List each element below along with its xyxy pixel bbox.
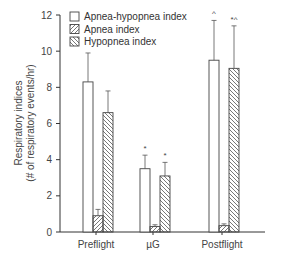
significance-mark: *	[143, 144, 146, 153]
legend-swatch	[70, 25, 79, 34]
legend-item: Apnea index	[70, 24, 140, 35]
y-tick-label: 4	[46, 154, 52, 165]
y-tick-label: 6	[46, 118, 52, 129]
y-tick-label: 8	[46, 82, 52, 93]
bar-0-1: *	[140, 144, 150, 232]
legend-swatch	[70, 12, 79, 21]
bar-2-2: *^	[229, 15, 239, 232]
y-tick-label: 10	[41, 46, 53, 57]
bar-1-1	[150, 225, 160, 232]
legend-label: Hypopnea index	[84, 36, 156, 47]
bar-1-2	[219, 224, 229, 232]
legend-swatch	[70, 37, 79, 46]
legend-item: Apnea-hypopnea index	[70, 11, 187, 22]
legend: Apnea-hypopnea indexApnea indexHypopnea …	[70, 11, 187, 47]
significance-mark: *	[163, 151, 166, 160]
y-axis-title: Respiratory indices(# of respiratory eve…	[13, 64, 36, 181]
y-axis-sublabel: (# of respiratory events/hr)	[25, 64, 36, 181]
significance-mark: *^	[231, 15, 238, 24]
x-category-label: µG	[146, 239, 160, 250]
bar-1-0	[93, 209, 103, 232]
legend-label: Apnea index	[84, 24, 140, 35]
x-category-label: Postflight	[201, 239, 242, 250]
legend-item: Hypopnea index	[70, 36, 156, 47]
bar-2-0	[103, 91, 113, 232]
bar-chart: Respiratory indices(# of respiratory eve…	[0, 0, 284, 263]
y-tick-label: 12	[41, 10, 53, 21]
bar-0-0	[83, 53, 93, 232]
significance-mark: ^	[212, 9, 216, 18]
bar-0-2: ^	[209, 9, 219, 232]
y-axis-label: Respiratory indices	[13, 80, 24, 165]
x-category-label: Preflight	[78, 239, 115, 250]
bar-2-1: *	[160, 151, 170, 232]
legend-label: Apnea-hypopnea index	[84, 11, 187, 22]
y-tick-label: 2	[46, 190, 52, 201]
y-tick-label: 0	[46, 227, 52, 238]
